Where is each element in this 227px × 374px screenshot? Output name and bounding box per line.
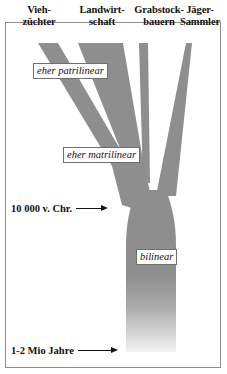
- column-headers: Vieh- züchter Landwirt- schaft Grabstock…: [0, 0, 227, 42]
- column-header-jaeger-sammler: Jäger- Sammler: [175, 4, 225, 28]
- timescale-note-text: 10 000 v. Chr.: [11, 203, 72, 214]
- timescale-note-million-years: 1-2 Mio Jahre: [11, 345, 118, 356]
- column-header-line2: züchter: [8, 16, 70, 28]
- arrow-right-icon: [76, 205, 108, 212]
- tree-trunk: [126, 190, 176, 352]
- column-header-viehzuechter: Vieh- züchter: [8, 4, 70, 28]
- kinship-tree-graphic: [0, 0, 227, 374]
- timescale-note-10000-bc: 10 000 v. Chr.: [11, 203, 108, 214]
- column-header-line2: Sammler: [175, 16, 225, 28]
- branch-jaeger-sammler: [156, 43, 192, 196]
- column-header-line1: Vieh-: [8, 4, 70, 16]
- column-header-line1: Jäger-: [175, 4, 225, 16]
- label-patrilinear: eher patrilinear: [33, 63, 108, 79]
- label-bilinear: bilinear: [136, 249, 177, 265]
- timescale-note-text: 1-2 Mio Jahre: [11, 345, 74, 356]
- arrow-right-icon: [78, 347, 118, 354]
- diagram-figure: Vieh- züchter Landwirt- schaft Grabstock…: [0, 0, 227, 374]
- label-matrilinear: eher matrilinear: [63, 147, 140, 163]
